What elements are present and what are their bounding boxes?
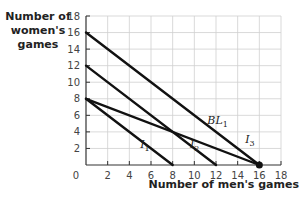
y-tick-label: 8 (74, 93, 80, 104)
x-tick-label: 4 (126, 170, 132, 181)
x-tick-label: 8 (169, 170, 175, 181)
tick-labels: 02468101214161824681012141618 (67, 11, 287, 182)
x-tick-label: 12 (210, 170, 223, 181)
endpoint-dot (256, 162, 263, 169)
y-tick-label: 12 (67, 60, 80, 71)
x-tick-label: 2 (104, 170, 110, 181)
label-i1: I1 (139, 138, 149, 153)
x-tick-label: 6 (148, 170, 154, 181)
x-tick-label: 0 (73, 170, 79, 181)
label-bl1: BL1 (206, 114, 227, 129)
label-i3: I3 (244, 133, 254, 148)
annotations (256, 162, 263, 169)
y-tick-label: 10 (67, 77, 80, 88)
y-tick-label: 16 (67, 27, 80, 38)
y-tick-label: 6 (74, 110, 80, 121)
y-tick-label: 2 (74, 143, 80, 154)
y-tick-label: 4 (74, 126, 80, 137)
x-tick-label: 14 (231, 170, 244, 181)
y-tick-label: 14 (67, 44, 80, 55)
y-tick-label: 18 (67, 11, 80, 22)
x-tick-label: 18 (275, 170, 288, 181)
x-tick-label: 10 (188, 170, 201, 181)
chart-plot: 02468101214161824681012141618 I1I2I3BL1 (0, 0, 303, 202)
x-tick-label: 16 (253, 170, 266, 181)
